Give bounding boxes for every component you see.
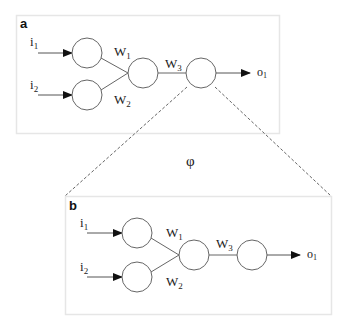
hidden-node [128, 58, 158, 88]
input-node-2 [72, 80, 102, 110]
input-node-2 [122, 262, 152, 292]
panel-b-label: b [69, 198, 77, 213]
phi-symbol: φ [186, 153, 195, 169]
output-node [237, 240, 267, 270]
panel-b: b i1 i2 W1 W2 W3 o1 [66, 197, 332, 315]
output-node [186, 58, 216, 88]
hidden-node [179, 240, 209, 270]
neural-network-diagram: a i1 i2 W1 W2 W3 o1 φ b i1 i2 W1 W2 [0, 0, 344, 327]
input-node-1 [72, 38, 102, 68]
panel-a: a i1 i2 W1 W2 W3 o1 [17, 16, 280, 134]
panel-a-label: a [20, 16, 28, 31]
input-node-1 [122, 218, 152, 248]
